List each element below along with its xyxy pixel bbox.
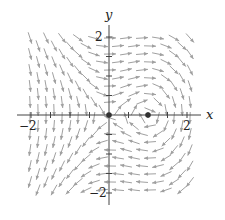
arrow-head	[104, 132, 108, 136]
arrow-head	[144, 188, 148, 192]
arrow-head	[144, 156, 148, 160]
arrow-head	[189, 87, 192, 91]
arrow-head	[70, 63, 74, 67]
arrow-head	[96, 157, 100, 161]
arrow-head	[119, 92, 123, 95]
arrow-head	[152, 149, 156, 152]
critical-point	[145, 112, 151, 118]
arrow-head	[167, 78, 171, 82]
arrow-head	[152, 76, 156, 80]
arrow-head	[104, 164, 108, 168]
arrow-head	[175, 54, 179, 58]
arrow-head	[28, 104, 32, 108]
arrow-head	[144, 172, 148, 176]
arrow-head	[60, 136, 64, 140]
arrow-head	[37, 80, 41, 84]
arrow-head	[28, 136, 32, 140]
arrow-head	[95, 53, 99, 56]
arrow-head	[52, 144, 56, 148]
arrow-head	[181, 95, 184, 99]
arrow-head	[44, 152, 48, 156]
x-tick-label: −2	[19, 119, 37, 133]
arrow-head	[52, 159, 55, 163]
arrow-head	[144, 52, 148, 56]
arrow-head	[60, 151, 63, 155]
arrow-head	[36, 160, 40, 164]
arrow-head	[112, 52, 116, 56]
arrow-head	[144, 84, 148, 88]
arrow-head	[144, 36, 148, 40]
arrow-head	[120, 76, 124, 80]
arrow-head	[60, 120, 64, 124]
arrow-head	[172, 120, 176, 124]
arrow-head	[44, 120, 48, 124]
arrow-head	[29, 72, 33, 76]
arrow-head	[188, 136, 192, 140]
arrow-head	[128, 140, 132, 143]
y-tick-label: 2	[95, 30, 103, 44]
arrow-head	[127, 84, 131, 87]
y-tick-label: −2	[89, 186, 107, 200]
arrow-head	[144, 125, 148, 129]
arrow-head	[112, 68, 116, 72]
arrow-head	[29, 39, 32, 43]
arrow-head	[173, 103, 176, 107]
x-axis-label: x	[206, 107, 214, 122]
arrow-head	[144, 140, 148, 144]
arrow-head	[104, 180, 108, 184]
arrow-head	[152, 181, 156, 185]
arrow-head	[36, 191, 39, 195]
arrow-head	[136, 60, 140, 64]
arrow-head	[190, 55, 194, 59]
arrow-head	[152, 60, 156, 64]
arrow-head	[36, 175, 39, 179]
arrow-head	[112, 36, 116, 40]
critical-point	[106, 112, 112, 118]
arrow-head	[76, 120, 80, 124]
y-axis-label: y	[104, 7, 113, 22]
arrow-head	[128, 156, 132, 160]
arrow-head	[136, 180, 140, 184]
x-tick-label: 2	[183, 119, 191, 133]
arrow-head	[88, 181, 92, 184]
arrow-head	[179, 159, 183, 163]
arrow-head	[112, 156, 116, 160]
arrow-head	[112, 84, 116, 88]
arrow-head	[52, 128, 56, 132]
arrow-head	[104, 61, 108, 65]
arrow-head	[112, 100, 116, 104]
arrow-head	[28, 168, 32, 172]
arrow-head	[160, 189, 164, 192]
arrow-head	[76, 135, 79, 139]
arrow-head	[160, 53, 164, 57]
arrow-head	[96, 141, 100, 144]
arrow-head	[44, 167, 47, 171]
arrow-head	[45, 55, 48, 59]
arrow-head	[143, 100, 147, 103]
arrow-head	[37, 47, 40, 51]
arrow-head	[128, 68, 132, 72]
arrow-head	[45, 88, 49, 92]
arrow-head	[87, 62, 91, 66]
arrow-head	[68, 143, 71, 147]
arrow-head	[124, 112, 127, 116]
arrow-head	[120, 164, 124, 168]
arrow-head	[84, 127, 87, 131]
arrow-head	[167, 45, 171, 48]
arrow-head	[53, 96, 57, 100]
arrow-head	[152, 44, 156, 48]
arrow-head	[160, 37, 164, 41]
arrow-head	[44, 104, 48, 108]
vector-field-plot: x y −222−2	[0, 0, 225, 220]
arrow-head	[104, 148, 108, 152]
arrow-head	[128, 52, 132, 56]
